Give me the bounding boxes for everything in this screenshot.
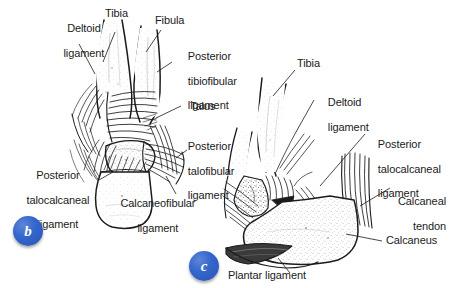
callout-line: Calcaneofibular (120, 197, 195, 209)
leader-deltoid-c (296, 100, 314, 132)
callout-line: talocalcaneal (26, 194, 89, 206)
callout-line: Posterior (188, 50, 231, 62)
callout-talus-b: Talus (190, 100, 215, 112)
callout-line: ligament (328, 121, 369, 133)
callout-tibia-b: Tibia (105, 7, 128, 19)
callout-line: tendon (413, 220, 446, 232)
callout-line: Deltoid (328, 96, 362, 108)
callout-calcaneofibular-ligament-b: Calcaneofibular ligament (104, 185, 200, 246)
anatomy-figure: Deltoid ligament Tibia Fibula Posterior … (0, 0, 451, 288)
panel-badge-c[interactable]: c (189, 251, 219, 281)
callout-line: ligament (64, 47, 105, 59)
callout-plantar-ligament-c: Plantar ligament (228, 269, 306, 281)
fibula-bone-b (134, 26, 160, 130)
callout-line: Deltoid (67, 22, 101, 34)
talar-head-c (234, 176, 268, 216)
tibia-bone-c (256, 78, 286, 176)
panel-badge-b[interactable]: b (13, 216, 43, 246)
callout-line: Calcaneal (398, 195, 446, 207)
callout-line: Posterior (378, 138, 421, 150)
callout-line: Posterior (36, 169, 79, 181)
callout-line: ligament (38, 218, 79, 230)
callout-fibula-b: Fibula (155, 14, 184, 26)
callout-calcaneus-c: Calcaneus (386, 234, 437, 246)
callout-deltoid-ligament-c: Deltoid ligament (316, 84, 369, 145)
callout-tibia-c: Tibia (297, 57, 320, 69)
callout-line: ligament (138, 222, 179, 234)
callout-line: tibiofibular (188, 75, 237, 87)
callout-line: talofibular (188, 165, 235, 177)
callout-line: talocalcaneal (378, 163, 441, 175)
callout-line: Posterior (188, 140, 231, 152)
calcaneofibular-ligament-b (150, 125, 177, 174)
